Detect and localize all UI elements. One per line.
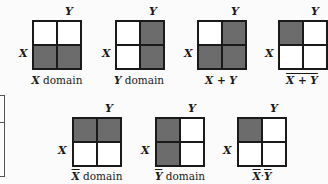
caption-var-x-overlined: X [253,170,261,182]
caption: Y domain [114,74,164,86]
caption: X·Y [253,170,272,182]
y-axis-label: Y [231,6,239,17]
region-square [237,117,287,167]
x-axis-label: X [58,145,67,156]
x-axis-label: X [265,48,274,59]
cell-bottom-left [74,142,97,165]
cell-top-left [34,22,57,45]
caption: X + Y [286,74,318,86]
cell-top-left-shaded [280,22,303,45]
caption-var-y-overlined: Y [264,170,272,182]
caption: Y domain [155,170,205,182]
region-square [197,20,247,70]
cell-top-right-shaded [222,22,245,45]
y-axis-label: Y [105,103,113,114]
cell-bottom-right-shaded [57,45,80,68]
x-axis-label: X [184,48,193,59]
x-axis-label: X [223,145,232,156]
y-axis-label: Y [311,6,319,17]
caption: X + Y [205,74,237,86]
cell-top-left-shaded [74,119,97,142]
partial-figure-divider [0,122,4,123]
cell-top-right [180,119,203,142]
caption-text: domain [162,170,205,182]
caption-expr-overlined: X + Y [286,74,318,86]
caption-var-overlined: X [72,170,80,182]
caption-var-overlined: Y [155,170,163,182]
x-axis-label: X [141,145,150,156]
caption: X domain [32,74,83,86]
y-axis-label: Y [270,103,278,114]
cell-top-left-shaded [157,119,180,142]
cell-bottom-right [180,142,203,165]
region-square [32,20,82,70]
region-square [115,20,165,70]
x-axis-label: X [102,48,111,59]
cell-bottom-left-shaded [199,45,222,68]
cell-bottom-left [117,45,140,68]
cell-bottom-right [97,142,120,165]
cell-bottom-right-shaded [222,45,245,68]
caption-text: domain [80,170,123,182]
caption-text: domain [40,74,83,86]
cell-bottom-left-shaded [157,142,180,165]
caption-var: X [32,74,40,86]
cell-bottom-right-shaded [140,45,163,68]
cell-top-right [303,22,326,45]
y-axis-label: Y [65,6,73,17]
cell-top-right [262,119,285,142]
cell-top-left [199,22,222,45]
region-square [72,117,122,167]
cell-top-right [57,22,80,45]
region-square [155,117,205,167]
cell-bottom-left [239,142,262,165]
caption-text: domain [121,74,164,86]
cell-top-right-shaded [140,22,163,45]
cell-top-left-shaded [239,119,262,142]
y-axis-label: Y [149,6,157,17]
region-square [278,20,328,70]
cell-top-right-shaded [97,119,120,142]
cell-bottom-right [262,142,285,165]
caption-var: Y [114,74,122,86]
cell-top-left [117,22,140,45]
partial-figure-fragment [0,95,5,177]
cell-bottom-left-shaded [34,45,57,68]
x-axis-label: X [19,48,28,59]
y-axis-label: Y [188,103,196,114]
cell-bottom-right [303,45,326,68]
caption: X domain [72,170,123,182]
cell-bottom-left [280,45,303,68]
caption-expr: X + Y [205,74,237,86]
